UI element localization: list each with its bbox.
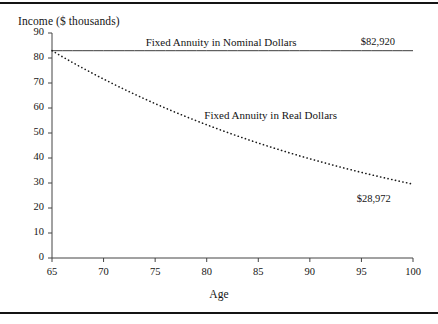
x-tick-label: 90: [290, 266, 330, 277]
y-tick-label: 30: [16, 176, 44, 187]
chart-figure: Income ($ thousands) Age 010203040506070…: [0, 0, 438, 324]
y-tick-label: 0: [16, 251, 44, 262]
x-tick-label: 75: [135, 266, 175, 277]
y-tick-label: 50: [16, 126, 44, 137]
y-tick-label: 80: [16, 51, 44, 62]
x-tick-label: 100: [393, 266, 433, 277]
y-tick-label: 10: [16, 226, 44, 237]
x-tick-label: 85: [238, 266, 278, 277]
x-tick-label: 70: [84, 266, 124, 277]
y-tick-label: 40: [16, 151, 44, 162]
x-tick-label: 80: [187, 266, 227, 277]
y-tick-marks: [48, 33, 52, 258]
series-name-annotation: Fixed Annuity in Nominal Dollars: [143, 36, 300, 48]
x-tick-label: 95: [341, 266, 381, 277]
y-tick-label: 20: [16, 201, 44, 212]
axes-group: [52, 33, 413, 258]
x-tick-label: 65: [32, 266, 72, 277]
y-tick-label: 90: [16, 26, 44, 37]
series-value-annotation: $82,920: [359, 36, 397, 47]
y-tick-label: 60: [16, 101, 44, 112]
series-value-annotation: $28,972: [355, 193, 393, 204]
y-tick-label: 70: [16, 76, 44, 87]
series-name-annotation: Fixed Annuity in Real Dollars: [201, 109, 340, 121]
x-tick-marks: [52, 258, 413, 262]
